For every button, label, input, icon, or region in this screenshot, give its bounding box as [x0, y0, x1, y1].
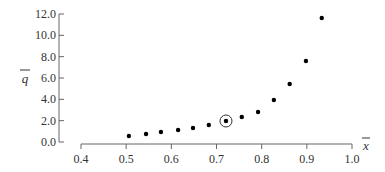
x-axis-label: x	[362, 138, 369, 153]
y-tick-label: 10.0	[35, 28, 56, 42]
x-tick-label: 0.7	[209, 152, 224, 166]
y-tick-label: 4.0	[41, 92, 56, 106]
x-tick-label: 0.9	[299, 152, 314, 166]
data-point	[256, 110, 260, 114]
scatter-chart: 0.02.04.06.08.010.012.0 0.40.50.60.70.80…	[0, 0, 385, 172]
y-tick-label: 12.0	[35, 7, 56, 21]
data-point	[127, 134, 131, 138]
data-point	[207, 123, 211, 127]
x-tick-label: 0.6	[164, 152, 179, 166]
y-tick-label: 2.0	[41, 114, 56, 128]
x-tick-label: 0.4	[74, 152, 89, 166]
data-points	[127, 16, 324, 138]
data-point	[191, 126, 195, 130]
data-point	[176, 128, 180, 132]
data-point	[224, 119, 228, 123]
y-tick-label: 0.0	[41, 135, 56, 149]
y-tick-label: 8.0	[41, 50, 56, 64]
data-point	[272, 98, 276, 102]
x-tick-label: 0.5	[119, 152, 134, 166]
data-point	[159, 130, 163, 134]
data-point	[287, 82, 291, 86]
y-tick-label: 6.0	[41, 71, 56, 85]
data-point	[320, 16, 324, 20]
data-point	[144, 132, 148, 136]
y-axis-label: q	[22, 71, 29, 86]
data-point	[240, 115, 244, 119]
x-tick-label: 1.0	[345, 152, 360, 166]
x-tick-label: 0.8	[254, 152, 269, 166]
y-axis: 0.02.04.06.08.010.012.0	[35, 7, 64, 149]
data-point	[304, 59, 308, 63]
x-axis: 0.40.50.60.70.80.91.0	[74, 144, 360, 166]
